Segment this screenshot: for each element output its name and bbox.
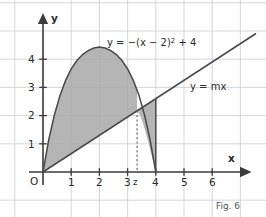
- x-tick-label-5: 5: [181, 176, 188, 188]
- graph-canvas: y x O 1 2 3 4 5 6 z 1 2 3 4 y = −(x − 2)…: [0, 0, 266, 217]
- shaded-region-parabola-over-line: [43, 47, 137, 172]
- y-tick-label-3: 3: [28, 81, 35, 93]
- x-tick-label-6: 6: [209, 176, 216, 188]
- y-tick-label-1: 1: [28, 138, 35, 150]
- y-axis-label: y: [51, 12, 58, 24]
- y-tick-label-4: 4: [28, 53, 35, 65]
- x-axis-label: x: [228, 152, 235, 164]
- origin-label: O: [30, 175, 38, 187]
- parabola-equation-main: y = −(x − 2): [107, 37, 171, 48]
- x-tick-label-1: 1: [68, 176, 75, 188]
- parabola-equation-tail: + 4: [175, 37, 196, 48]
- line-equation-label: y = mx: [190, 81, 226, 92]
- y-axis-arrowhead: [38, 13, 48, 24]
- parabola-equation-label: y = −(x − 2)2 + 4: [107, 37, 196, 49]
- x-tick-label-3: 3: [124, 176, 131, 188]
- figure-container: y x O 1 2 3 4 5 6 z 1 2 3 4 y = −(x − 2)…: [0, 0, 266, 217]
- z-marker-label: z: [133, 177, 138, 187]
- x-axis-arrowhead: [240, 167, 252, 177]
- x-tick-label-2: 2: [96, 176, 103, 188]
- y-tick-label-2: 2: [28, 109, 35, 121]
- figure-caption: Fig. 6: [216, 201, 240, 211]
- x-tick-label-4: 4: [152, 176, 159, 188]
